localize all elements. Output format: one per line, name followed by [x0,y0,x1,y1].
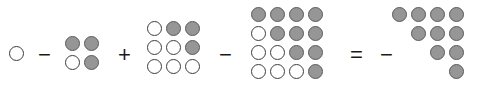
dot-empty [147,59,162,74]
dot-filled [84,55,99,70]
three-by-three-grid [147,21,200,74]
dot-placeholder [392,45,407,60]
dot-empty [251,64,266,79]
dot-filled [84,36,99,51]
dot-empty [251,26,266,41]
dot-filled [185,40,200,55]
dot-filled [308,7,323,22]
minus-sign-1: − [38,44,51,66]
minus-sign-2: − [219,44,232,66]
dot-empty [289,64,304,79]
dot-filled [289,26,304,41]
dot-placeholder [392,64,407,79]
dot-filled [308,26,323,41]
dot-placeholder [411,64,426,79]
dot-filled [308,45,323,60]
dot-filled [251,7,266,22]
single-empty-dot [9,46,24,61]
dot-empty [270,64,285,79]
four-by-four-grid [251,7,323,79]
dot-empty [270,45,285,60]
dot-empty [9,46,24,61]
dot-filled [166,21,181,36]
dot-filled [270,26,285,41]
dot-empty [251,45,266,60]
dot-filled [185,21,200,36]
two-by-two-grid [65,36,99,70]
dot-filled [270,7,285,22]
dot-filled [289,7,304,22]
equation-canvas: −+−=− [0,0,485,109]
dot-empty [166,59,181,74]
dot-empty [65,55,80,70]
dot-empty [147,40,162,55]
dot-filled [392,7,407,22]
minus-sign-3: − [380,44,393,66]
dot-filled [449,26,464,41]
dot-filled [449,64,464,79]
dot-placeholder [430,64,445,79]
staircase-grid [392,7,464,79]
dot-filled [449,7,464,22]
dot-placeholder [411,45,426,60]
dot-filled [308,64,323,79]
dot-filled [430,26,445,41]
dot-filled [430,7,445,22]
dot-filled [430,45,445,60]
dot-placeholder [392,26,407,41]
dot-filled [65,36,80,51]
dot-empty [185,59,200,74]
dot-filled [411,26,426,41]
equals-sign: = [350,44,363,66]
dot-filled [289,45,304,60]
dot-filled [411,7,426,22]
dot-filled [449,45,464,60]
plus-sign: + [118,44,131,66]
dot-empty [166,40,181,55]
dot-empty [147,21,162,36]
